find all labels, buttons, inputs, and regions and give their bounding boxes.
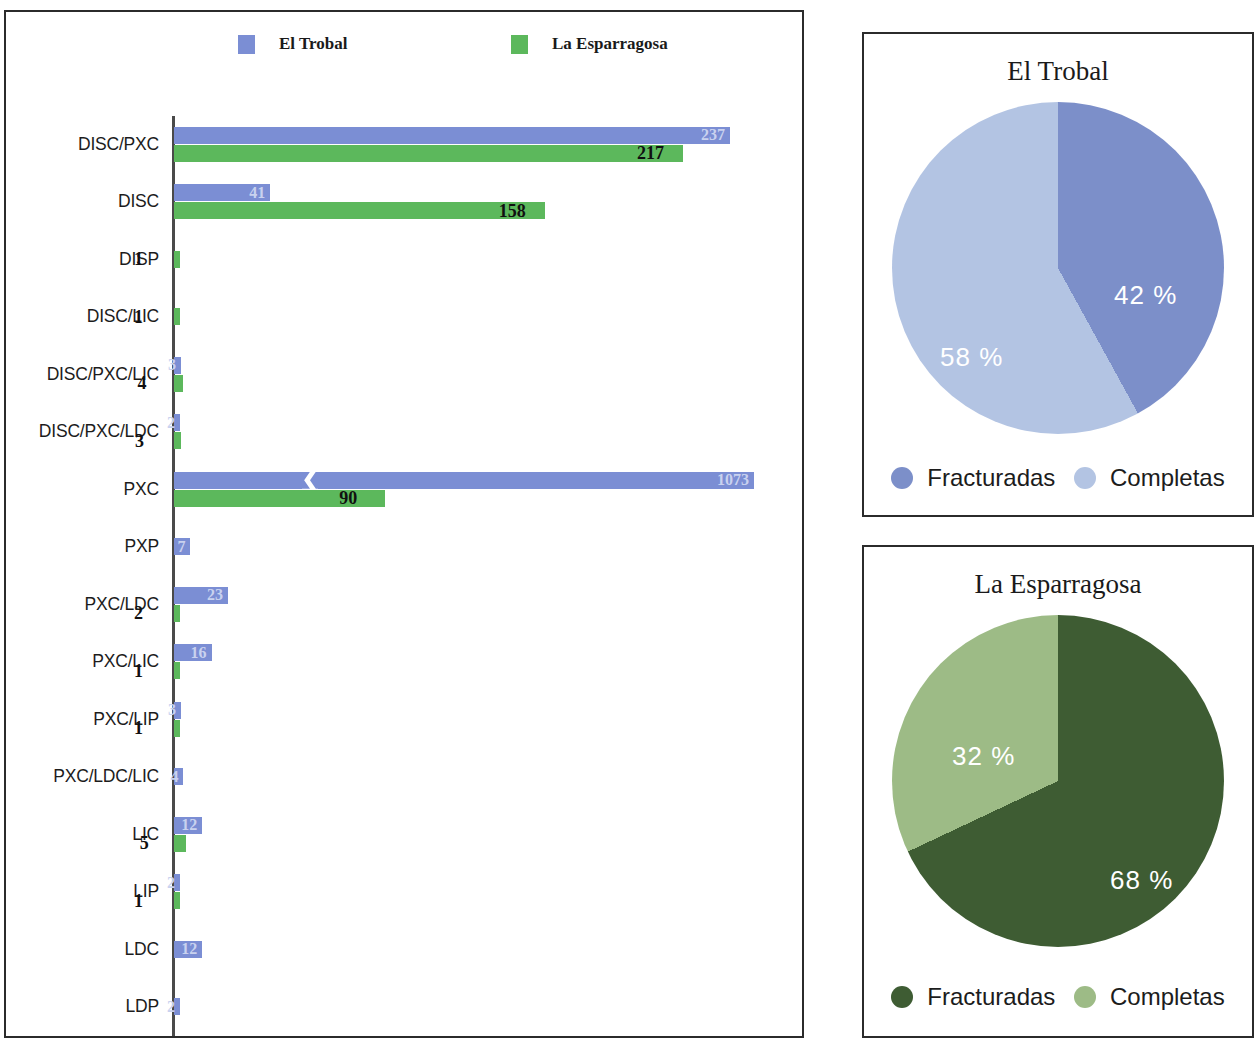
bar-chart-category-row: PXC/LIC161	[172, 634, 788, 692]
bar-value-el-trobal: 7	[177, 539, 185, 555]
pie-slice-label-completas-el-trobal: 58 %	[940, 342, 1003, 373]
bar-value-el-trobal: 16	[191, 645, 207, 661]
bar-chart-category-row: PXC/LIP31	[172, 691, 788, 749]
pie-legend-label-fracturadas: Fracturadas	[927, 464, 1055, 492]
bar-value-el-trobal: 4	[170, 769, 178, 785]
legend-item-la-esparragosa: La Esparragosa	[511, 34, 668, 54]
bar-chart-category-row: DISC/PXC/LIC34	[172, 346, 788, 404]
pie-panel-el-trobal: El Trobal 42 % 58 % Fracturadas Completa…	[862, 32, 1254, 517]
bar-chart-category-row: LIP21	[172, 864, 788, 922]
bar-chart-category-row: DISP1	[172, 231, 788, 289]
bar-value-el-trobal: 2	[167, 875, 175, 891]
bar-el-trobal: 16	[174, 644, 212, 661]
bar-el-trobal: 23	[174, 587, 228, 604]
bar-la-esparragosa: 3	[174, 432, 181, 449]
bar-chart-category-row: PXC107390	[172, 461, 788, 519]
bar-la-esparragosa: 1	[174, 720, 180, 737]
pie-legend-dot-completas	[1074, 986, 1096, 1008]
pie-slice-label-completas-la-esparragosa: 32 %	[952, 741, 1015, 772]
bar-category-label: DISC/PXC	[78, 134, 159, 155]
bar-el-trobal: 12	[174, 941, 202, 958]
bar-category-label: PXC/LIC	[92, 651, 159, 672]
bar-value-el-trobal: 12	[181, 817, 197, 833]
bar-value-la-esparragosa: 3	[135, 432, 144, 450]
bar-chart-category-row: DISC41158	[172, 174, 788, 232]
bar-value-la-esparragosa: 4	[137, 374, 146, 392]
bar-la-esparragosa: 1	[174, 251, 180, 268]
bar-la-esparragosa: 1	[174, 308, 180, 325]
figure-root: El Trobal La Esparragosa DISC/PXC237217D…	[0, 0, 1257, 1055]
bar-chart-panel: El Trobal La Esparragosa DISC/PXC237217D…	[4, 10, 804, 1038]
bar-category-label: PXC/LDC/LIC	[53, 766, 159, 787]
bar-chart-category-row: LIC125	[172, 806, 788, 864]
pie-legend-el-trobal: Fracturadas Completas	[864, 464, 1252, 492]
pie-legend-label-completas: Completas	[1110, 983, 1225, 1011]
bar-el-trobal: 1073	[174, 472, 754, 489]
bar-category-label: LDP	[126, 996, 159, 1017]
bar-value-el-trobal: 23	[207, 587, 223, 603]
bar-value-el-trobal: 2	[167, 999, 175, 1015]
bar-chart-category-row: LDC12	[172, 921, 788, 979]
pie-title-el-trobal: El Trobal	[864, 56, 1252, 87]
bar-chart-category-row: DISC/PXC/LDC23	[172, 404, 788, 462]
pie-legend-label-completas: Completas	[1110, 464, 1225, 492]
legend-swatch-el-trobal	[238, 35, 255, 54]
bar-value-el-trobal: 12	[181, 941, 197, 957]
bar-chart-category-row: PXP7	[172, 519, 788, 577]
bar-la-esparragosa: 158	[174, 202, 545, 219]
bar-category-label: PXC/LDC	[85, 594, 159, 615]
bar-value-la-esparragosa: 90	[339, 489, 357, 507]
legend-label-la-esparragosa: La Esparragosa	[552, 34, 668, 54]
bar-chart-category-row: DISC/PXC237217	[172, 116, 788, 174]
bar-la-esparragosa: 1	[174, 662, 180, 679]
bar-chart-category-row: LDP2	[172, 979, 788, 1037]
bar-category-label: PXP	[125, 536, 159, 557]
pie-legend-label-fracturadas: Fracturadas	[927, 983, 1055, 1011]
bar-la-esparragosa: 5	[174, 835, 186, 852]
bar-value-la-esparragosa: 1	[134, 892, 143, 910]
bar-el-trobal: 2	[174, 874, 180, 891]
bar-value-el-trobal: 1073	[717, 472, 749, 488]
bar-category-label: LDC	[125, 939, 159, 960]
bar-chart-category-row: PXC/LDC/LIC4	[172, 749, 788, 807]
bar-value-la-esparragosa: 217	[637, 144, 664, 162]
pie-title-la-esparragosa: La Esparragosa	[864, 569, 1252, 600]
bar-value-la-esparragosa: 1	[134, 308, 143, 326]
bar-chart-category-row: PXC/LDC232	[172, 576, 788, 634]
pie-slice-label-fracturadas-la-esparragosa: 68 %	[1110, 865, 1173, 896]
pie-legend-item-fracturadas-la-esparragosa: Fracturadas	[891, 983, 1055, 1011]
pie-legend-dot-completas	[1074, 467, 1096, 489]
bar-category-label: PXC	[124, 479, 159, 500]
bar-chart-plot-area: DISC/PXC237217DISC41158DISP1DISC/LIC1DIS…	[172, 116, 788, 1036]
bar-el-trobal: 2	[174, 414, 180, 431]
bar-value-el-trobal: 2	[167, 415, 175, 431]
pie-legend-la-esparragosa: Fracturadas Completas	[864, 983, 1252, 1011]
pie-legend-item-completas-la-esparragosa: Completas	[1074, 983, 1225, 1011]
bar-el-trobal: 2	[174, 998, 180, 1015]
bar-el-trobal: 41	[174, 184, 270, 201]
bar-category-label: DISC/LIC	[87, 306, 159, 327]
bar-value-el-trobal: 237	[701, 127, 725, 143]
bar-el-trobal: 7	[174, 538, 190, 555]
bar-value-el-trobal: 3	[168, 702, 176, 718]
legend-swatch-la-esparragosa	[511, 35, 528, 54]
bar-el-trobal: 12	[174, 817, 202, 834]
pie-legend-dot-fracturadas	[891, 467, 913, 489]
bar-la-esparragosa: 217	[174, 145, 683, 162]
legend-item-el-trobal: El Trobal	[238, 34, 348, 54]
bar-value-la-esparragosa: 1	[134, 250, 143, 268]
bar-el-trobal: 237	[174, 127, 730, 144]
bar-value-la-esparragosa: 1	[134, 662, 143, 680]
bar-el-trobal: 3	[174, 702, 181, 719]
bar-value-la-esparragosa: 5	[140, 834, 149, 852]
bar-value-la-esparragosa: 2	[134, 604, 143, 622]
bar-el-trobal: 4	[174, 768, 183, 785]
bar-category-label: DISC	[118, 191, 159, 212]
bar-category-label: PXC/LIP	[93, 709, 159, 730]
bar-la-esparragosa: 1	[174, 892, 180, 909]
bar-la-esparragosa: 90	[174, 490, 385, 507]
axis-break-marker	[302, 472, 318, 489]
bar-chart-category-row: DISC/LIC1	[172, 289, 788, 347]
bar-value-la-esparragosa: 158	[499, 202, 526, 220]
bar-la-esparragosa: 4	[174, 375, 183, 392]
